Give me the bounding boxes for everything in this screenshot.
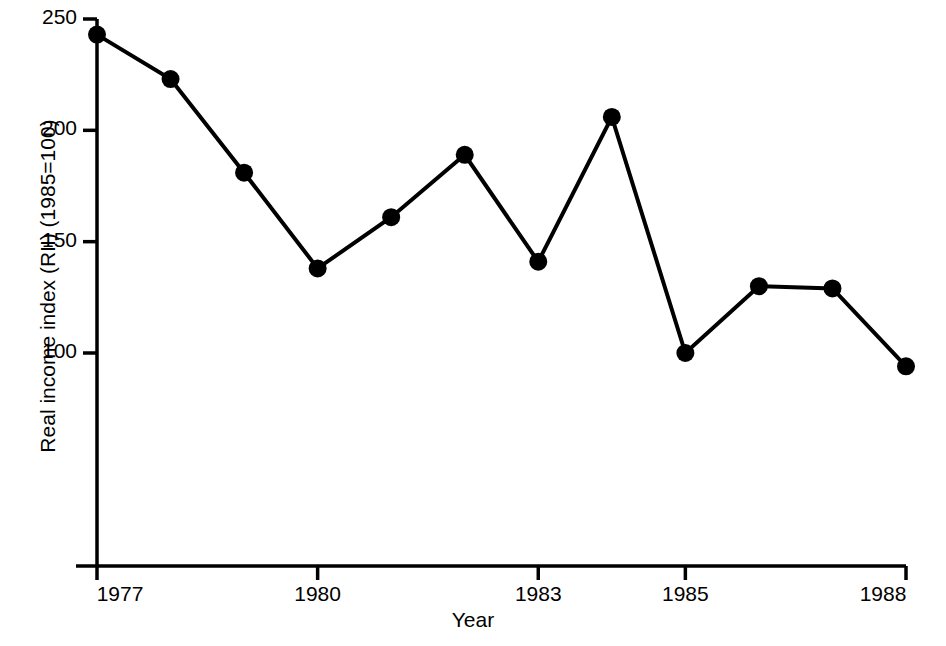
x-axis-title: Year	[0, 608, 946, 632]
data-point	[382, 208, 400, 226]
data-line	[97, 35, 906, 367]
y-tick-label: 250	[17, 5, 77, 29]
data-point	[823, 279, 841, 297]
data-point	[162, 70, 180, 88]
y-axis-title: Real income index (RII) (1985=100)	[36, 76, 60, 496]
x-tick-label: 1985	[640, 582, 730, 606]
data-point	[88, 26, 106, 44]
data-point	[309, 259, 327, 277]
data-point	[456, 146, 474, 164]
x-axis-ticks	[97, 566, 906, 580]
x-tick-label: 1977	[75, 582, 165, 606]
line-chart: 100150200250 19771980198319851988 Real i…	[0, 0, 946, 646]
data-point	[676, 344, 694, 362]
data-markers	[88, 26, 915, 376]
x-tick-label: 1980	[273, 582, 363, 606]
chart-plot-area	[0, 0, 946, 646]
data-point	[529, 253, 547, 271]
data-point	[750, 277, 768, 295]
x-tick-label: 1983	[493, 582, 583, 606]
data-point	[897, 357, 915, 375]
x-tick-label: 1988	[838, 582, 928, 606]
data-point	[603, 108, 621, 126]
data-point	[235, 164, 253, 182]
y-axis-ticks	[83, 19, 97, 353]
